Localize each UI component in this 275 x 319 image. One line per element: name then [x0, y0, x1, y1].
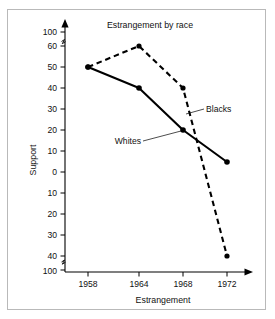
data-point — [136, 85, 142, 91]
chart-title: Estrangement by race — [107, 20, 193, 30]
data-point — [180, 127, 186, 133]
x-tick-label: 1964 — [129, 279, 148, 289]
y-tick-label: 40 — [47, 251, 57, 261]
y-axis — [61, 19, 68, 272]
annotation-blacks: Blacks — [186, 104, 231, 114]
y-tick-label: 40 — [47, 83, 57, 93]
y-tick-label: 30 — [47, 230, 57, 240]
y-tick-label: 0 — [52, 167, 57, 177]
y-tick-label: 30 — [47, 104, 57, 114]
x-axis — [65, 268, 253, 275]
y-tick-label: 20 — [47, 125, 57, 135]
y-tick-marks — [61, 32, 66, 270]
data-point — [180, 85, 185, 90]
y-tick-label: 60 — [47, 41, 57, 51]
x-axis-title: Estrangement — [136, 295, 191, 305]
series-whites — [85, 64, 230, 165]
chart-canvas: Estrangement by race — [8, 10, 265, 309]
x-tick-label: 1968 — [173, 279, 192, 289]
y-tick-label: 10 — [47, 146, 57, 156]
data-point — [85, 64, 91, 70]
y-tick-label: 100 — [43, 27, 58, 37]
annotation-whites: Whites — [115, 131, 181, 146]
series-label-blacks: Blacks — [206, 104, 231, 114]
x-tick-labels: 1958 1964 1968 1972 — [78, 279, 236, 289]
x-tick-marks — [88, 272, 227, 277]
figure-frame: Estrangement by race — [7, 9, 266, 310]
y-tick-labels: 100 60 50 40 30 20 10 0 10 20 30 40 100 — [43, 27, 58, 276]
y-tick-label: 10 — [47, 188, 57, 198]
y-tick-label: 100 — [43, 266, 58, 276]
x-tick-label: 1958 — [78, 279, 97, 289]
y-axis-title: Support — [28, 144, 38, 175]
x-tick-label: 1972 — [217, 279, 236, 289]
y-tick-label: 50 — [47, 62, 57, 72]
data-point — [136, 43, 141, 48]
y-tick-label: 20 — [47, 209, 57, 219]
data-point — [224, 253, 229, 258]
series-label-whites: Whites — [115, 136, 141, 146]
data-point — [224, 159, 230, 165]
